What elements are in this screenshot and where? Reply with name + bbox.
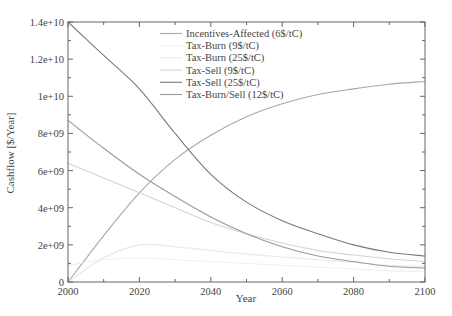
x-axis-title: Year	[236, 292, 257, 304]
legend-label: Tax-Burn (25$/tC)	[186, 52, 265, 64]
legend-label: Incentives-Affected (6$/tC)	[186, 28, 303, 40]
series-line-3	[68, 163, 425, 261]
y-tick-label: 1e+10	[38, 91, 64, 102]
legend-label: Tax-Sell (25$/tC)	[186, 77, 260, 89]
x-tick-label: 2040	[200, 286, 221, 297]
series-line-1	[68, 258, 425, 272]
y-tick-label: 2e+09	[38, 240, 64, 251]
x-tick-label: 2060	[272, 286, 293, 297]
y-axis-title: Cashflow [$/Year]	[4, 112, 16, 193]
legend-label: Tax-Sell (9$/tC)	[186, 65, 255, 77]
y-tick-label: 4e+09	[38, 203, 64, 214]
cashflow-line-chart: 20002020204020602080210002e+094e+096e+09…	[0, 0, 452, 316]
series-line-0	[68, 81, 425, 282]
y-tick-label: 1.2e+10	[30, 54, 64, 65]
y-tick-label: 0	[59, 277, 64, 288]
legend: Incentives-Affected (6$/tC)Tax-Burn (9$/…	[160, 28, 303, 101]
y-tick-label: 8e+09	[38, 128, 64, 139]
y-tick-label: 1.4e+10	[30, 17, 64, 28]
legend-label: Tax-Burn/Sell (12$/tC)	[186, 89, 284, 101]
legend-label: Tax-Burn (9$/tC)	[186, 40, 260, 52]
y-tick-label: 6e+09	[38, 166, 64, 177]
x-tick-label: 2100	[415, 286, 436, 297]
x-tick-label: 2080	[343, 286, 364, 297]
x-tick-label: 2020	[129, 286, 150, 297]
series-line-5	[68, 120, 425, 268]
